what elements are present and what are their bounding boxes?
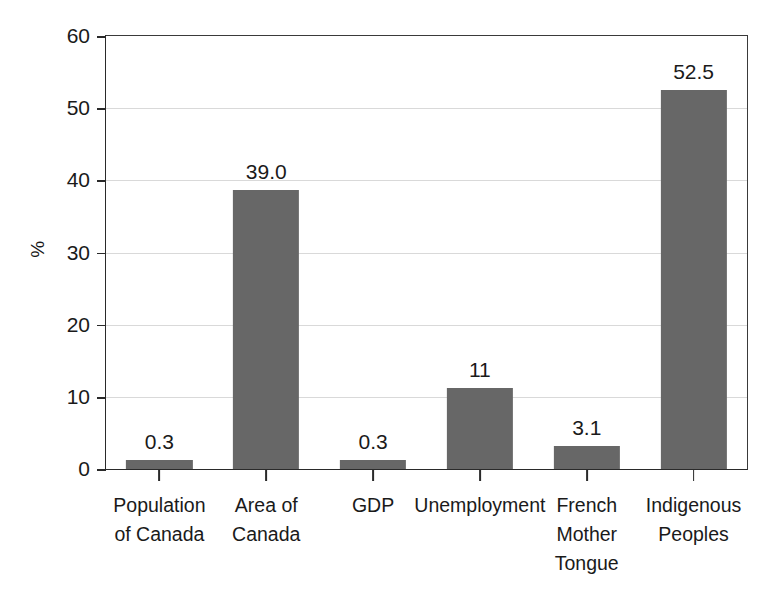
y-tick-label: 50 bbox=[67, 96, 90, 120]
y-tick-label: 10 bbox=[67, 385, 90, 409]
x-tick-mark bbox=[693, 469, 695, 481]
y-tick-mark bbox=[97, 108, 106, 110]
bar-slot[interactable]: 0.3GDP bbox=[320, 36, 427, 469]
y-tick-label: 30 bbox=[67, 241, 90, 265]
x-tick-mark bbox=[372, 469, 374, 481]
bar[interactable] bbox=[447, 388, 513, 469]
y-tick-mark bbox=[97, 36, 106, 38]
y-tick-mark bbox=[97, 469, 106, 471]
x-category-label: Indigenous Peoples bbox=[646, 491, 741, 549]
bar[interactable] bbox=[233, 190, 299, 469]
y-tick-mark bbox=[97, 325, 106, 327]
x-category-label: French Mother Tongue bbox=[555, 491, 619, 578]
bar-slot[interactable]: 0.3Population of Canada bbox=[106, 36, 213, 469]
y-tick-label: 20 bbox=[67, 313, 90, 337]
y-tick-mark bbox=[97, 253, 106, 255]
bar[interactable] bbox=[660, 90, 726, 469]
bar-value-label: 39.0 bbox=[246, 160, 287, 184]
bar-value-label: 11 bbox=[469, 358, 491, 382]
plot-area: 0102030405060 0.3Population of Canada39.… bbox=[105, 35, 748, 470]
bar-value-label: 0.3 bbox=[358, 430, 387, 454]
y-tick-label: 40 bbox=[67, 168, 90, 192]
x-category-label: Population of Canada bbox=[113, 491, 205, 549]
bar-slot[interactable]: 39.0Area of Canada bbox=[213, 36, 320, 469]
y-tick-mark bbox=[97, 180, 106, 182]
bar-slot[interactable]: 11Unemployment bbox=[427, 36, 534, 469]
bar-value-label: 52.5 bbox=[673, 60, 714, 84]
bar-value-label: 3.1 bbox=[572, 416, 601, 440]
bar[interactable] bbox=[340, 460, 406, 469]
x-category-label: GDP bbox=[352, 491, 394, 520]
y-axis-label: % bbox=[27, 229, 49, 269]
x-tick-mark bbox=[159, 469, 161, 481]
x-tick-mark bbox=[479, 469, 481, 481]
bar-value-label: 0.3 bbox=[145, 430, 174, 454]
bar[interactable] bbox=[554, 446, 620, 469]
x-tick-mark bbox=[586, 469, 588, 481]
y-tick-label: 0 bbox=[78, 457, 90, 481]
bar-slot[interactable]: 3.1French Mother Tongue bbox=[533, 36, 640, 469]
y-tick-label: 60 bbox=[67, 24, 90, 48]
x-category-label: Area of Canada bbox=[232, 491, 300, 549]
bar[interactable] bbox=[126, 460, 192, 469]
bar-chart-figure: % 0102030405060 0.3Population of Canada3… bbox=[0, 0, 767, 589]
y-tick-mark bbox=[97, 397, 106, 399]
bar-slot[interactable]: 52.5Indigenous Peoples bbox=[640, 36, 747, 469]
x-category-label: Unemployment bbox=[414, 491, 545, 520]
x-tick-mark bbox=[265, 469, 267, 481]
